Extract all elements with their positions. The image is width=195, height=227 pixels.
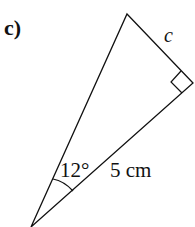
hypotenuse-label: 5 cm (110, 158, 151, 182)
right-angle-marker (171, 71, 182, 93)
angle-label: 12° (60, 158, 89, 182)
right-triangle-diagram: c 12° 5 cm (0, 0, 195, 227)
side-c-label: c (164, 24, 173, 46)
